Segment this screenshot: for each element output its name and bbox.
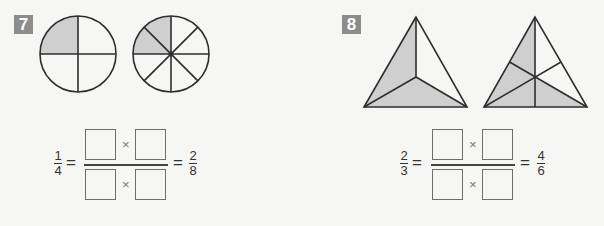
fraction-two-eighths: 2 8 [189,150,197,177]
equals-sign: = [520,154,530,171]
numerator: 2 [400,150,407,162]
numerator: 4 [537,150,544,162]
times-sign: × [469,138,477,151]
circle-eighths-figure [133,16,209,92]
fraction-one-fourth: 1 4 [54,150,62,177]
blank-box-denominator-1[interactable] [432,169,463,200]
equals-sign: = [412,154,422,171]
times-sign: × [122,138,130,151]
numerator: 2 [189,150,196,162]
blank-box-numerator-2[interactable] [135,129,166,160]
blank-box-numerator-2[interactable] [482,129,513,160]
equals-sign: = [173,154,183,171]
fraction-bar [431,164,515,166]
times-sign: × [122,178,130,191]
denominator: 4 [54,165,61,177]
triangle-sixths-figure [484,17,587,107]
circle-quarters-figure [40,16,116,92]
blank-box-denominator-2[interactable] [135,169,166,200]
blank-box-numerator-1[interactable] [85,129,116,160]
equals-sign: = [66,154,76,171]
fraction-two-thirds: 2 3 [400,150,408,177]
denominator: 6 [537,165,544,177]
blank-box-denominator-2[interactable] [482,169,513,200]
numerator: 1 [54,150,61,162]
blank-box-numerator-1[interactable] [432,129,463,160]
denominator: 8 [189,165,196,177]
fraction-four-sixths: 4 6 [537,150,545,177]
triangle-thirds-figure [364,17,467,107]
denominator: 3 [400,165,407,177]
blank-box-denominator-1[interactable] [85,169,116,200]
fraction-bar [84,164,168,166]
times-sign: × [469,178,477,191]
